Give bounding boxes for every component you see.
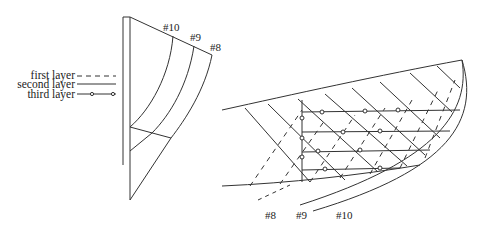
right-label-9: #9: [296, 210, 307, 221]
left-label-9: #9: [190, 32, 201, 43]
third-layer-circles: [300, 108, 400, 171]
right-label-8: #8: [265, 210, 276, 221]
left-label-8: #8: [210, 42, 221, 53]
legend-swatches: [77, 76, 116, 96]
legend-third-layer: third layer: [27, 89, 75, 101]
right-figure: [222, 60, 467, 211]
right-label-10: #10: [336, 210, 353, 221]
left-figure: [123, 17, 212, 200]
diagram-canvas: [0, 0, 479, 233]
left-label-10: #10: [163, 22, 180, 33]
